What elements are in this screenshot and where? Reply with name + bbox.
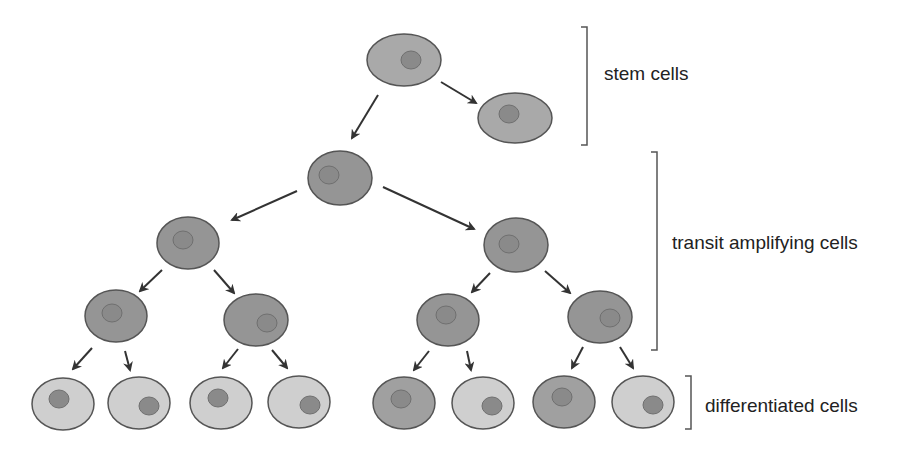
cell-body (612, 376, 674, 428)
arrow-ta-2-to-ta-5 (214, 270, 234, 293)
arrow-ta-5-to-diff-3 (223, 349, 238, 368)
cell-ta-2 (157, 217, 219, 269)
cell-body (308, 151, 372, 205)
cells (32, 34, 674, 430)
cell-ta-6 (417, 294, 479, 346)
cell-nucleus (391, 390, 411, 408)
arrow-stem-1-to-ta-1 (352, 95, 378, 138)
cell-nucleus (208, 389, 228, 407)
brackets (581, 27, 691, 429)
label-stem-cells: stem cells (604, 63, 688, 85)
arrow-ta-6-to-diff-5 (414, 351, 429, 370)
cell-nucleus (300, 396, 320, 414)
cell-diff-7 (533, 376, 595, 428)
cell-ta-5 (224, 294, 288, 346)
cell-body (108, 377, 170, 429)
cell-nucleus (139, 397, 159, 415)
arrow-ta-1-to-ta-2 (232, 191, 297, 220)
arrow-ta-6-to-diff-6 (467, 351, 471, 370)
cell-nucleus (436, 306, 456, 324)
cell-body (268, 376, 330, 428)
cell-stem-1 (367, 34, 441, 86)
cell-nucleus (102, 304, 122, 322)
arrow-ta-4-to-diff-2 (125, 351, 130, 370)
cell-ta-3 (484, 218, 548, 272)
cell-body (224, 294, 288, 346)
arrow-ta-3-to-ta-6 (472, 273, 490, 292)
cell-nucleus (319, 166, 339, 184)
cell-nucleus (257, 314, 277, 332)
arrow-stem-1-to-stem-2 (441, 82, 476, 103)
cell-nucleus (600, 309, 620, 327)
cell-nucleus (49, 390, 69, 408)
cell-nucleus (643, 396, 663, 414)
arrow-ta-7-to-diff-8 (620, 347, 633, 368)
arrow-ta-1-to-ta-3 (383, 187, 474, 229)
cell-diff-3 (190, 377, 252, 429)
arrow-ta-5-to-diff-4 (272, 350, 287, 368)
label-differentiated-cells: differentiated cells (705, 395, 858, 417)
cell-ta-4 (85, 290, 147, 342)
bracket-stem (581, 27, 587, 145)
cell-ta-1 (308, 151, 372, 205)
arrow-ta-2-to-ta-4 (140, 270, 162, 291)
cell-nucleus (499, 235, 519, 253)
arrow-ta-4-to-diff-1 (73, 348, 92, 369)
bracket-transit (651, 152, 657, 350)
cell-nucleus (499, 105, 519, 123)
cell-lineage-diagram: stem cells transit amplifying cells diff… (0, 0, 916, 453)
cell-nucleus (173, 231, 193, 249)
bracket-differentiated (685, 376, 691, 429)
cell-diff-5 (373, 377, 435, 429)
cell-diff-1 (32, 378, 94, 430)
cell-diff-2 (108, 377, 170, 429)
diagram-canvas (0, 0, 916, 453)
cell-nucleus (482, 397, 502, 415)
arrow-ta-7-to-diff-7 (572, 347, 583, 368)
arrow-ta-3-to-ta-7 (545, 271, 570, 293)
cell-nucleus (552, 388, 572, 406)
cell-diff-6 (452, 377, 514, 429)
cell-ta-7 (568, 291, 632, 343)
label-transit-amplifying-cells: transit amplifying cells (672, 232, 858, 254)
cell-diff-4 (268, 376, 330, 428)
cell-diff-8 (612, 376, 674, 428)
cell-stem-2 (478, 93, 552, 143)
cell-nucleus (401, 51, 421, 69)
